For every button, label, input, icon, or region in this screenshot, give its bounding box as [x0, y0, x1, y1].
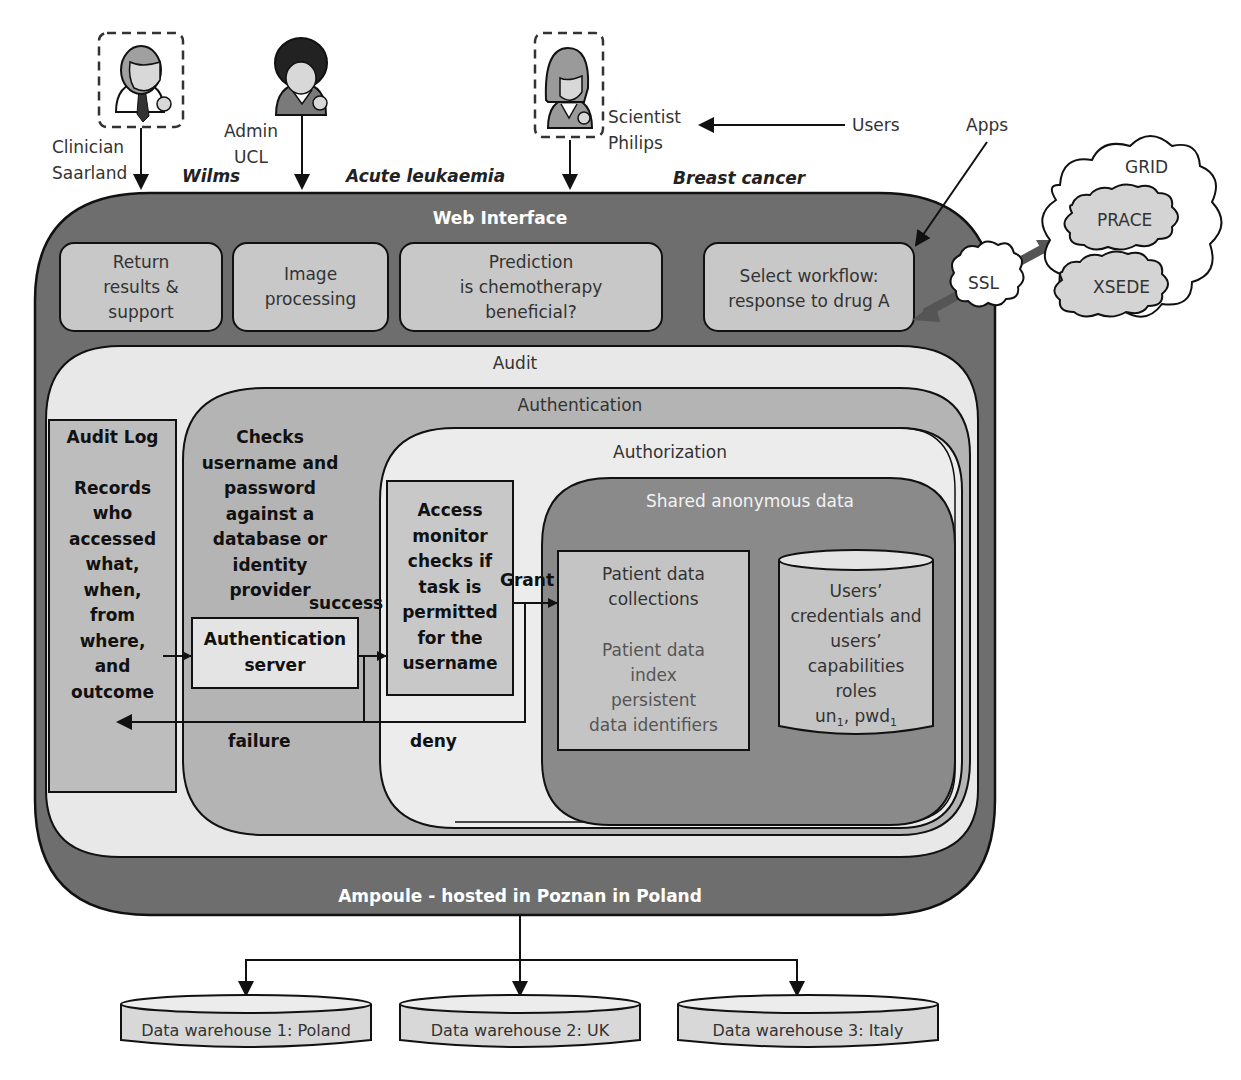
password-subscript: 1 [890, 716, 897, 729]
module-return-results-label: Return results & support [60, 250, 222, 325]
collections-line: Patient data [558, 562, 749, 587]
index-line: Patient data [558, 638, 749, 663]
clinician-label: Clinician Saarland [52, 134, 127, 186]
xsede-label: XSEDE [1093, 274, 1150, 300]
auth-server-line: Authentication [192, 627, 358, 653]
credentials-line: Users’ [779, 579, 933, 604]
audit-log-line: and [49, 654, 176, 680]
module-text: results & [60, 275, 222, 300]
clinician-site: Saarland [52, 160, 127, 186]
audit-log-line: accessed [49, 527, 176, 553]
prace-label: PRACE [1097, 207, 1152, 233]
index-line: index [558, 663, 749, 688]
grid-label: GRID [1125, 154, 1168, 180]
scientist-site: Philips [608, 130, 681, 156]
auth-desc-line: against a [196, 502, 344, 528]
web-interface-title: Web Interface [380, 208, 620, 228]
warehouse-2-label: Data warehouse 2: UK [400, 1018, 640, 1044]
failure-label: failure [228, 729, 291, 755]
monitor-line: monitor [387, 524, 513, 550]
module-text: processing [233, 287, 388, 312]
admin-site: UCL [220, 144, 282, 170]
monitor-line: Access [387, 498, 513, 524]
credentials-line: capabilities [779, 654, 933, 679]
module-text: Return [60, 250, 222, 275]
ssl-label: SSL [968, 270, 999, 296]
module-select-workflow-label: Select workflow: response to drug A [704, 264, 914, 314]
authentication-description: Checks username and password against a d… [196, 425, 344, 604]
patient-data-collections-label: Patient data collections [558, 562, 749, 612]
deny-label: deny [410, 729, 457, 755]
module-text: Select workflow: [704, 264, 914, 289]
scientist-avatar-icon [535, 33, 603, 137]
admin-role: Admin [220, 118, 282, 144]
username-var: un [815, 706, 837, 726]
module-text: is chemotherapy [400, 275, 662, 300]
audit-log-line: from [49, 603, 176, 629]
auth-desc-line: password [196, 476, 344, 502]
scientist-role: Scientist [608, 104, 681, 130]
module-image-processing-label: Image processing [233, 262, 388, 312]
warehouse-1-label: Data warehouse 1: Poland [121, 1018, 371, 1044]
success-label: success [309, 591, 383, 617]
collections-line: collections [558, 587, 749, 612]
module-text: beneficial? [400, 300, 662, 325]
admin-label: Admin UCL [220, 118, 282, 170]
audit-log-line: where, [49, 629, 176, 655]
apps-legend-label: Apps [966, 112, 1008, 138]
password-var: pwd [854, 706, 890, 726]
credentials-variables: un1, pwd1 [779, 704, 933, 735]
host-label: Ampoule - hosted in Poznan in Poland [280, 886, 760, 906]
auth-desc-line: identity [196, 553, 344, 579]
audit-log-line: who [49, 501, 176, 527]
grant-label: Grant [500, 568, 554, 594]
auth-desc-line: database or [196, 527, 344, 553]
credentials-line: roles [779, 679, 933, 704]
monitor-line: username [387, 651, 513, 677]
username-subscript: 1 [837, 716, 844, 729]
module-text: support [60, 300, 222, 325]
diagram-canvas [0, 0, 1241, 1080]
module-prediction-label: Prediction is chemotherapy beneficial? [400, 250, 662, 325]
authentication-title: Authentication [500, 392, 660, 418]
index-line: data identifiers [558, 713, 749, 738]
module-text: Image [233, 262, 388, 287]
auth-desc-line: username and [196, 451, 344, 477]
credentials-line: credentials and [779, 604, 933, 629]
credentials-line: users’ [779, 629, 933, 654]
var-separator: , [844, 706, 855, 726]
authentication-server-label: Authentication server [192, 627, 358, 678]
admin-avatar-icon [275, 38, 327, 115]
audit-log-title: Audit Log [49, 425, 176, 451]
scientist-label: Scientist Philips [608, 104, 681, 156]
monitor-line: task is [387, 575, 513, 601]
study-breast-cancer: Breast cancer [673, 168, 805, 188]
clinician-role: Clinician [52, 134, 127, 160]
shared-data-title: Shared anonymous data [620, 488, 880, 514]
clinician-avatar-icon [99, 33, 183, 127]
access-monitor-label: Access monitor checks if task is permitt… [387, 498, 513, 677]
module-text: Prediction [400, 250, 662, 275]
audit-log-text: Audit Log Records who accessed what, whe… [49, 425, 176, 705]
index-line: persistent [558, 688, 749, 713]
auth-server-line: server [192, 653, 358, 679]
audit-log-line: outcome [49, 680, 176, 706]
warehouse-3-label: Data warehouse 3: Italy [678, 1018, 938, 1044]
users-legend-label: Users [852, 112, 900, 138]
patient-data-index-label: Patient data index persistent data ident… [558, 638, 749, 738]
study-acute-leukaemia: Acute leukaemia [346, 166, 505, 186]
monitor-line: permitted [387, 600, 513, 626]
audit-log-line: when, [49, 578, 176, 604]
audit-title: Audit [470, 350, 560, 376]
monitor-line: for the [387, 626, 513, 652]
credentials-label: Users’ credentials and users’ capabiliti… [779, 579, 933, 735]
authorization-title: Authorization [600, 439, 740, 465]
audit-log-line: Records [49, 476, 176, 502]
monitor-line: checks if [387, 549, 513, 575]
module-text: response to drug A [704, 289, 914, 314]
audit-log-line: what, [49, 552, 176, 578]
auth-desc-line: Checks [196, 425, 344, 451]
